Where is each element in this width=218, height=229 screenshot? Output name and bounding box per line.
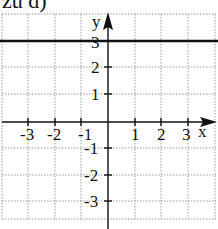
- x-tick-label: -2: [47, 125, 61, 144]
- y-tick-label: 3: [91, 33, 100, 52]
- y-tick-label: -3: [84, 192, 98, 211]
- y-tick-label: -1: [84, 139, 98, 158]
- coordinate-plot: y x -3 -2 -1 1 2 3 3 2 1 -1 -2 -3: [0, 0, 218, 229]
- y-tick-label: 2: [91, 58, 100, 77]
- y-tick-label: -2: [84, 166, 98, 185]
- x-axis-label: x: [198, 122, 207, 141]
- x-tick-label: -3: [20, 125, 34, 144]
- x-tick-label: 1: [131, 125, 140, 144]
- x-tick-label: 3: [182, 125, 191, 144]
- y-tick-label: 1: [91, 85, 100, 104]
- y-axis-label: y: [92, 12, 101, 31]
- x-tick-label: 2: [157, 125, 166, 144]
- y-axis: [104, 26, 112, 229]
- grid: [2, 14, 216, 219]
